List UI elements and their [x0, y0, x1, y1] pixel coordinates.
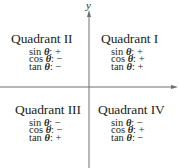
quadrant-ii-title: Quadrant II [11, 32, 73, 46]
x-axis-arrow-icon [171, 85, 178, 89]
y-axis-arrow-icon [87, 10, 91, 17]
quadrant-ii-tan: tan θ: − [29, 63, 63, 70]
quadrant-iv-tan: tan θ: − [111, 134, 145, 141]
quadrant-iii-signs: sin θ: − cos θ: − tan θ: + [29, 119, 63, 141]
quadrant-i-title: Quadrant I [101, 32, 158, 46]
coordinate-axes [0, 0, 179, 168]
quadrant-i-tan: tan θ: + [111, 63, 145, 70]
quadrant-iv-title: Quadrant IV [98, 103, 165, 117]
quadrant-ii-signs: sin θ: + cos θ: − tan θ: − [29, 48, 63, 70]
quadrant-iii-tan: tan θ: + [29, 134, 63, 141]
y-axis-label: y [86, 0, 91, 11]
quadrant-iv-signs: sin θ: − cos θ: + tan θ: − [111, 119, 145, 141]
quadrant-iii-title: Quadrant III [15, 103, 81, 117]
quadrant-i-signs: sin θ: + cos θ: + tan θ: + [111, 48, 145, 70]
